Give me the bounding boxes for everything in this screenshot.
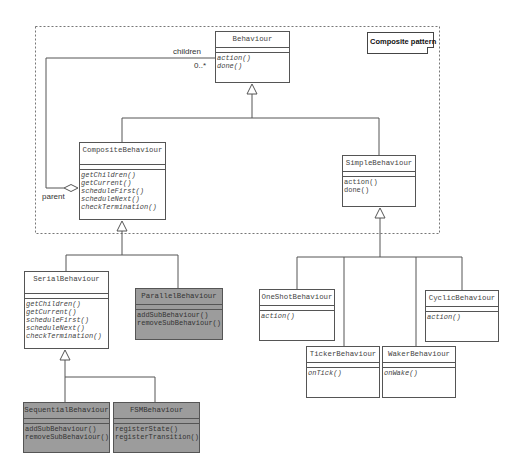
class-sequential-behaviour[interactable]: SequentialBehaviour addSubBehaviour() re… [23, 402, 110, 453]
inheritance-triangle-icon [60, 350, 70, 360]
note-fold-icon [427, 47, 434, 54]
operation: registerTransition() [115, 433, 199, 441]
inheritance-triangle-icon [117, 221, 127, 231]
operation: scheduleFirst() [81, 187, 165, 195]
operation: getCurrent() [81, 179, 165, 187]
class-serial-behaviour[interactable]: SerialBehaviour getChildren() getCurrent… [24, 271, 109, 349]
operation: removeSubBehaviour() [25, 433, 109, 441]
operation: checkTermination() [26, 332, 108, 340]
operations-compartment: onTick() [307, 368, 379, 377]
class-composite-behaviour[interactable]: CompositeBehaviour getChildren() getCurr… [79, 142, 166, 220]
class-name: TickerBehaviour [307, 347, 379, 363]
operation: action() [261, 312, 334, 320]
operations-compartment: action() [260, 311, 334, 320]
class-fsm-behaviour[interactable]: FSMBehaviour registerState() registerTra… [113, 402, 200, 453]
operation: done() [344, 186, 415, 194]
class-name: SequentialBehaviour [24, 403, 109, 419]
operations-compartment: getChildren() getCurrent() scheduleFirst… [80, 170, 165, 211]
inheritance-triangle-icon [247, 84, 257, 94]
operation: checkTermination() [81, 203, 165, 211]
class-name: FSMBehaviour [114, 403, 199, 419]
class-name: SimpleBehaviour [343, 156, 415, 172]
class-name: OneShotBehaviour [260, 290, 334, 306]
operations-compartment: action() done() [216, 53, 289, 70]
class-waker-behaviour[interactable]: WakerBehaviour onWake() [382, 346, 456, 398]
class-ticker-behaviour[interactable]: TickerBehaviour onTick() [306, 346, 380, 398]
operation: scheduleFirst() [26, 316, 108, 324]
class-name: SerialBehaviour [25, 272, 108, 294]
operations-compartment: addSubBehaviour() removeSubBehaviour() [136, 310, 222, 327]
role-children-label: children [173, 47, 201, 56]
class-behaviour[interactable]: Behaviour action() done() [215, 31, 290, 83]
operation: onWake() [384, 369, 455, 377]
operation: addSubBehaviour() [25, 425, 109, 433]
class-oneshot-behaviour[interactable]: OneShotBehaviour action() [259, 289, 335, 341]
class-name: ParallelBehaviour [136, 289, 222, 305]
operation: addSubBehaviour() [137, 311, 222, 319]
class-cyclic-behaviour[interactable]: CyclicBehaviour action() [425, 290, 499, 342]
inheritance-triangle-icon [375, 208, 385, 218]
operation: getChildren() [26, 300, 108, 308]
composite-pattern-note: Composite pattern [367, 32, 434, 54]
operation: done() [217, 62, 289, 70]
operation: getCurrent() [26, 308, 108, 316]
class-name: Behaviour [216, 32, 289, 48]
operations-compartment: registerState() registerTransition() [114, 424, 199, 441]
multiplicity-label: 0..* [194, 61, 206, 70]
aggregation-diamond-icon [64, 185, 78, 192]
operation: onTick() [308, 369, 379, 377]
class-parallel-behaviour[interactable]: ParallelBehaviour addSubBehaviour() remo… [135, 288, 223, 340]
class-name: WakerBehaviour [383, 347, 455, 363]
operation: scheduleNext() [81, 195, 165, 203]
operation: registerState() [115, 425, 199, 433]
operation: action() [344, 178, 415, 186]
operations-compartment: addSubBehaviour() removeSubBehaviour() [24, 424, 109, 441]
role-parent-label: parent [42, 192, 65, 201]
operations-compartment: action() done() [343, 177, 415, 194]
class-name: CompositeBehaviour [80, 143, 165, 165]
operations-compartment: onWake() [383, 368, 455, 377]
operations-compartment: action() [426, 312, 498, 321]
operation: action() [427, 313, 498, 321]
operation: removeSubBehaviour() [137, 319, 222, 327]
operation: scheduleNext() [26, 324, 108, 332]
class-name: CyclicBehaviour [426, 291, 498, 307]
operations-compartment: getChildren() getCurrent() scheduleFirst… [25, 299, 108, 340]
operation: action() [217, 54, 289, 62]
operation: getChildren() [81, 171, 165, 179]
class-simple-behaviour[interactable]: SimpleBehaviour action() done() [342, 155, 416, 207]
